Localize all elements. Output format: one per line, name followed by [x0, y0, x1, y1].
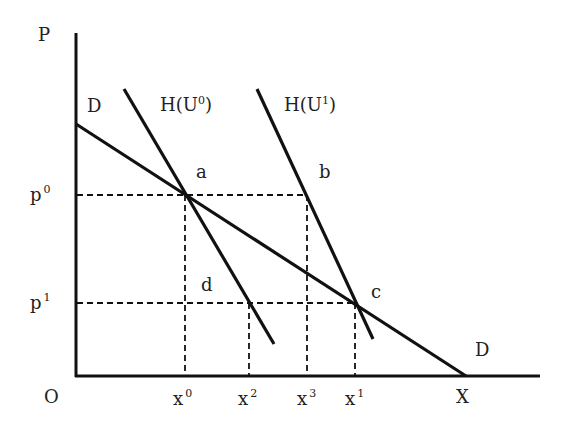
origin-label: O: [44, 386, 59, 407]
quantity-tick-x1: x1: [345, 387, 364, 409]
quantity-tick-x2: x2: [238, 387, 257, 409]
y-axis-label: P: [38, 24, 50, 45]
quantity-tick-x3: x3: [297, 387, 316, 409]
x-axis-end-label: X: [456, 386, 469, 407]
hicksian-demand-diagram: P O X D D H(U0) H(U1) a b c d p0 p1 x0 x…: [0, 0, 563, 432]
price-tick-p0: p0: [30, 183, 51, 205]
point-a-label: a: [196, 161, 207, 182]
price-tick-p1: p1: [30, 291, 51, 313]
point-c-label: c: [371, 281, 381, 302]
point-b-label: b: [319, 161, 331, 182]
hicksian-demand-u0: [124, 89, 274, 344]
hicks-u0-label: H(U0): [160, 94, 212, 115]
guide-lines: [77, 195, 356, 376]
quantity-tick-x0: x0: [173, 387, 192, 409]
demand-label-left: D: [87, 95, 101, 116]
hicks-u1-label: H(U1): [284, 94, 336, 115]
demand-label-right: D: [475, 339, 489, 360]
hicksian-demand-u1: [257, 89, 373, 339]
point-d-label: d: [201, 274, 213, 295]
